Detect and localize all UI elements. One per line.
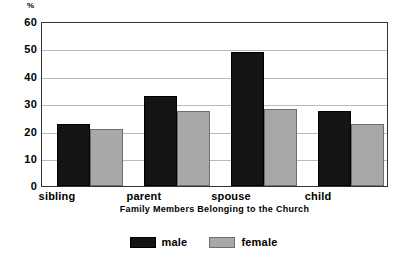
gridline-30 xyxy=(42,105,387,106)
y-tick-label-10: 10 xyxy=(3,154,37,165)
bar-chart-figure: % 60 50 40 30 20 10 0 sibling p xyxy=(0,0,407,261)
y-tick-label-30: 30 xyxy=(3,99,37,110)
y-tick-label-40: 40 xyxy=(3,72,37,83)
chart-legend: male female xyxy=(0,237,407,248)
legend-swatch-female-icon xyxy=(209,237,235,248)
x-tick-label-parent: parent xyxy=(99,190,189,202)
bar-sibling-female[interactable] xyxy=(90,129,123,186)
legend-label-male: male xyxy=(162,237,188,248)
gridline-50 xyxy=(42,50,387,51)
legend-label-female: female xyxy=(241,237,277,248)
plot-area xyxy=(41,22,388,187)
bar-child-male[interactable] xyxy=(318,111,351,186)
bar-parent-female[interactable] xyxy=(177,111,210,186)
legend-entry-female[interactable]: female xyxy=(209,237,277,248)
bar-spouse-female[interactable] xyxy=(264,109,297,186)
bar-child-female[interactable] xyxy=(351,124,384,186)
legend-swatch-male-icon xyxy=(130,237,156,248)
x-tick-label-spouse: spouse xyxy=(186,190,276,202)
x-tick-label-child: child xyxy=(273,190,363,202)
y-tick-label-50: 50 xyxy=(3,44,37,55)
x-tick-label-sibling: sibling xyxy=(12,190,102,202)
gridline-40 xyxy=(42,78,387,79)
bar-parent-male[interactable] xyxy=(144,96,177,186)
bar-spouse-male[interactable] xyxy=(231,52,264,186)
y-tick-label-20: 20 xyxy=(3,127,37,138)
y-tick-label-60: 60 xyxy=(3,17,37,28)
legend-entry-male[interactable]: male xyxy=(130,237,188,248)
x-axis-title: Family Members Belonging to the Church xyxy=(41,204,388,215)
bar-sibling-male[interactable] xyxy=(57,124,90,186)
y-axis-tick-labels: 60 50 40 30 20 10 0 xyxy=(0,0,37,261)
